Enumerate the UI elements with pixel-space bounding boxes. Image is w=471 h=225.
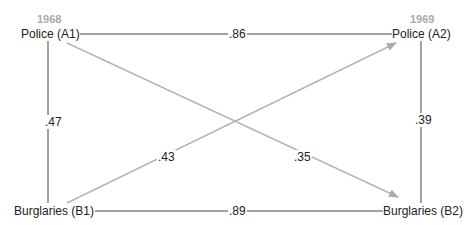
node-burglaries-b2: Burglaries (B2) <box>383 204 463 218</box>
coef-a1-a2: .86 <box>228 27 247 41</box>
coef-a1-b1: .47 <box>44 115 63 129</box>
arrow-b1-a2 <box>67 43 396 203</box>
node-police-a2: Police (A2) <box>392 27 451 41</box>
coef-a2-b2: .39 <box>414 113 433 127</box>
coef-b1-b2: .89 <box>228 204 247 218</box>
coef-b1-a2: .43 <box>157 150 176 164</box>
year-1969-label: 1969 <box>410 13 434 25</box>
year-1968-label: 1968 <box>37 13 61 25</box>
coef-a1-b2: .35 <box>293 150 312 164</box>
node-police-a1: Police (A1) <box>21 27 80 41</box>
node-burglaries-b1: Burglaries (B1) <box>14 204 94 218</box>
